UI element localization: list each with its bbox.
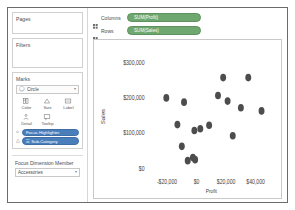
scatter-mark[interactable] bbox=[225, 97, 231, 105]
columns-shelf-label: Columns bbox=[101, 15, 127, 21]
focus-dimension-member-label: Focus Dimension Member bbox=[15, 160, 80, 166]
scatter-mark[interactable] bbox=[206, 121, 212, 129]
chevron-down-icon: ▾ bbox=[74, 87, 76, 91]
scatter-plot-viz[interactable]: $0$100,000$200,000$300,000 -$20,000$0$20… bbox=[93, 39, 282, 199]
scatter-mark[interactable] bbox=[220, 74, 226, 82]
scatter-mark[interactable] bbox=[215, 92, 221, 100]
scatter-mark[interactable] bbox=[185, 157, 191, 165]
y-axis-title: Sales bbox=[101, 109, 106, 125]
x-axis-tick-label: $20,000 bbox=[217, 179, 236, 186]
marks-pill-row-sub-category[interactable]: △ ☷ Sub-Category bbox=[13, 137, 82, 145]
scatter-mark[interactable] bbox=[191, 127, 197, 135]
filters-shelf[interactable]: Filters bbox=[12, 38, 83, 68]
y-axis-tick-label: $0 bbox=[139, 165, 145, 172]
marks-label-label: Label bbox=[63, 106, 73, 110]
marks-pill-row-focus-highlighter[interactable]: ⌂ Focus Highlighter bbox=[13, 129, 82, 137]
scatter-mark[interactable] bbox=[192, 156, 198, 164]
grid-icon bbox=[93, 15, 98, 20]
pill-focus-highlighter[interactable]: Focus Highlighter bbox=[22, 129, 79, 137]
marks-detail-button[interactable]: Detail bbox=[16, 112, 37, 126]
columns-shelf-dropzone[interactable]: SUM(Profit) bbox=[127, 12, 283, 23]
scatter-mark[interactable] bbox=[163, 94, 169, 102]
focus-dimension-member-dropdown[interactable]: Accessories ▾ bbox=[15, 168, 80, 177]
marks-tooltip-button[interactable]: Tooltip bbox=[37, 112, 58, 126]
pill-sum-sales[interactable]: SUM(Sales) bbox=[127, 26, 201, 35]
tableau-worksheet-window: Pages Filters Marks ◯ Circle ▾ bbox=[7, 7, 288, 203]
focus-dimension-member-section: Focus Dimension Member Accessories ▾ bbox=[12, 155, 83, 177]
detail-icon bbox=[22, 112, 31, 121]
marks-buttons-grid: Color Size bbox=[13, 97, 82, 128]
pages-shelf[interactable]: Pages bbox=[12, 12, 83, 34]
y-axis-tick-label: $300,000 bbox=[123, 60, 145, 67]
scatter-mark[interactable] bbox=[259, 107, 265, 115]
rows-shelf-label: Rows bbox=[101, 28, 127, 34]
marks-card-title: Marks bbox=[13, 73, 82, 84]
pages-shelf-title: Pages bbox=[13, 13, 82, 24]
x-axis-tick-label: $0 bbox=[194, 179, 200, 186]
scatter-mark[interactable] bbox=[238, 104, 244, 112]
scatter-mark[interactable] bbox=[230, 132, 236, 140]
rows-shelf-dropzone[interactable]: SUM(Sales) bbox=[127, 25, 283, 36]
scatter-mark[interactable] bbox=[174, 121, 180, 129]
scatter-plot-svg[interactable]: $0$100,000$200,000$300,000 -$20,000$0$20… bbox=[94, 40, 281, 198]
tooltip-icon bbox=[43, 112, 52, 121]
rows-shelf[interactable]: Rows SUM(Sales) bbox=[93, 25, 283, 36]
marks-size-button[interactable]: Size bbox=[37, 97, 58, 111]
columns-shelf[interactable]: Columns SUM(Profit) bbox=[93, 12, 283, 23]
x-axis-tick-label: -$20,000 bbox=[157, 179, 178, 186]
scatter-mark[interactable] bbox=[197, 125, 203, 133]
y-axis-tick-label: $200,000 bbox=[123, 95, 145, 102]
marks-detail-label: Detail bbox=[21, 122, 32, 126]
focus-dimension-member-value: Accessories bbox=[18, 170, 43, 175]
circle-mark-icon: ◯ bbox=[19, 87, 25, 92]
scatter-mark[interactable] bbox=[181, 98, 187, 106]
marks-type-value: Circle bbox=[27, 87, 74, 92]
marks-tooltip-label: Tooltip bbox=[41, 122, 53, 126]
marks-size-label: Size bbox=[43, 106, 51, 110]
pill-sub-category[interactable]: ☷ Sub-Category bbox=[22, 137, 79, 145]
x-axis-tick-label: $40,000 bbox=[246, 179, 265, 186]
marks-card: Marks ◯ Circle ▾ Color bbox=[12, 72, 83, 149]
y-axis-tick-label: $100,000 bbox=[123, 130, 145, 137]
y-axis-tick-labels: $0$100,000$200,000$300,000 bbox=[123, 60, 145, 172]
scatter-mark[interactable] bbox=[245, 74, 251, 82]
scatter-marks-layer bbox=[163, 74, 264, 165]
x-axis-title: Profit bbox=[206, 187, 218, 194]
x-axis-tick-labels: -$20,000$0$20,000$40,000 bbox=[157, 179, 266, 186]
marks-color-label: Color bbox=[21, 106, 31, 110]
marks-label-button[interactable]: Label bbox=[58, 97, 79, 111]
grid-icon bbox=[93, 28, 98, 33]
scatter-mark[interactable] bbox=[179, 142, 185, 150]
left-sidebar: Pages Filters Marks ◯ Circle ▾ bbox=[8, 8, 88, 202]
marks-color-button[interactable]: Color bbox=[16, 97, 37, 111]
marks-type-dropdown[interactable]: ◯ Circle ▾ bbox=[16, 85, 79, 94]
main-area: Columns SUM(Profit) Rows SUM(Sales) $ bbox=[88, 8, 287, 202]
filters-shelf-title: Filters bbox=[13, 39, 82, 50]
pill-sum-profit[interactable]: SUM(Profit) bbox=[127, 13, 201, 22]
chevron-down-icon: ▾ bbox=[75, 170, 77, 174]
